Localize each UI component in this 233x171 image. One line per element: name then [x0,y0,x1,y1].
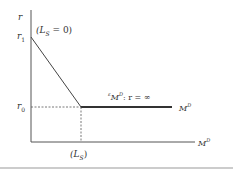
ls-zero-label: (LS = 0) [36,26,72,37]
x-axis-label: MD [198,138,210,148]
elasticity-label: εMD: r = ∞ [108,92,150,102]
r0-label: r0 [17,102,25,113]
y-axis-label: r [18,13,22,22]
ls-label: (LS) [70,150,87,161]
demand-sloped-segment [31,37,81,107]
demand-curve-label: MD [179,103,191,113]
r1-label: r1 [17,32,25,43]
